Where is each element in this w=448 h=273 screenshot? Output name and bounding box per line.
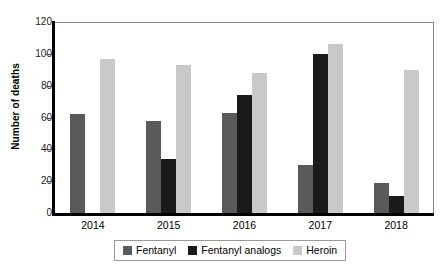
bar-fentanyl-analogs-2018[interactable]	[389, 196, 404, 214]
x-tick-label-2017: 2017	[282, 218, 358, 234]
bar-slot	[176, 22, 191, 213]
bar-heroin-2018[interactable]	[404, 70, 419, 213]
y-tick-mark	[46, 149, 52, 150]
bar-fentanyl-2017[interactable]	[298, 165, 313, 213]
bar-slot	[389, 22, 404, 213]
bar-slot	[252, 22, 267, 213]
bar-slot	[146, 22, 161, 213]
bar-group-2015	[131, 22, 207, 213]
bar-slot	[404, 22, 419, 213]
bar-heroin-2017[interactable]	[328, 44, 343, 213]
bar-fentanyl-2015[interactable]	[146, 121, 161, 213]
legend-entry-fentanyl-analogs[interactable]: Fentanyl analogs	[188, 245, 281, 256]
bar-fentanyl-2018[interactable]	[374, 183, 389, 213]
x-tick-label-2016: 2016	[207, 218, 283, 234]
bar-group-2018	[358, 22, 434, 213]
x-tick-label-2018: 2018	[358, 218, 434, 234]
y-tick-mark	[46, 54, 52, 55]
bar-fentanyl-analogs-2016[interactable]	[237, 95, 252, 213]
bar-fentanyl-analogs-2017[interactable]	[313, 54, 328, 213]
bar-slot	[161, 22, 176, 213]
y-tick-mark	[46, 118, 52, 119]
bar-slot	[222, 22, 237, 213]
y-axis-tick-labels: 020406080100120	[26, 0, 52, 273]
legend-entry-fentanyl[interactable]: Fentanyl	[123, 245, 176, 256]
y-tick-label: 0	[26, 208, 52, 218]
bar-slot	[70, 22, 85, 213]
bar-heroin-2015[interactable]	[176, 65, 191, 213]
bar-chart-figure: Number of deaths 020406080100120 2014201…	[0, 0, 448, 273]
legend-swatch-icon	[293, 246, 302, 255]
legend-label: Fentanyl	[136, 245, 176, 256]
x-axis-line	[52, 213, 434, 216]
bar-group-2016	[207, 22, 283, 213]
x-axis-tick-labels: 20142015201620172018	[55, 218, 434, 234]
legend-label: Fentanyl analogs	[201, 245, 281, 256]
bar-group-2014	[55, 22, 131, 213]
bar-group-2017	[282, 22, 358, 213]
legend-swatch-icon	[123, 246, 132, 255]
y-axis-title-text: Number of deaths	[10, 63, 21, 150]
y-tick-label: 120	[26, 17, 52, 27]
bar-heroin-2014[interactable]	[100, 59, 115, 213]
x-tick-label-2015: 2015	[131, 218, 207, 234]
bar-slot	[328, 22, 343, 213]
bar-slot	[313, 22, 328, 213]
legend-entry-heroin[interactable]: Heroin	[293, 245, 337, 256]
bar-slot	[374, 22, 389, 213]
bar-heroin-2016[interactable]	[252, 73, 267, 213]
bar-slot	[100, 22, 115, 213]
bar-fentanyl-2014[interactable]	[70, 114, 85, 213]
bar-groups	[55, 22, 434, 213]
y-tick-mark	[46, 86, 52, 87]
bar-slot	[237, 22, 252, 213]
chart-legend: FentanylFentanyl analogsHeroin	[114, 240, 346, 261]
bar-slot	[298, 22, 313, 213]
bar-slot	[85, 22, 100, 213]
legend-swatch-icon	[188, 246, 197, 255]
y-tick-mark	[46, 181, 52, 182]
bar-fentanyl-analogs-2015[interactable]	[161, 159, 176, 213]
legend-label: Heroin	[306, 245, 337, 256]
x-tick-label-2014: 2014	[55, 218, 131, 234]
y-axis-title: Number of deaths	[4, 0, 26, 213]
bar-fentanyl-2016[interactable]	[222, 113, 237, 213]
